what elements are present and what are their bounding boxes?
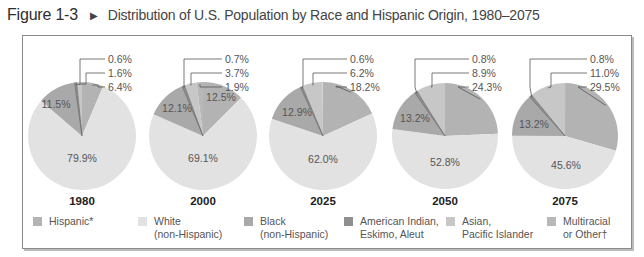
callout-label-multiracial: 1.9% (225, 81, 249, 93)
pct-label-black: 12.1% (162, 102, 192, 114)
legend-swatch (138, 217, 147, 226)
callout-label-american-indian: 0.6% (350, 53, 374, 65)
pct-label-black: 13.2% (519, 118, 549, 130)
callout-label-american-indian: 0.8% (590, 53, 614, 65)
legend-label: Black(non-Hispanic) (260, 215, 328, 241)
pct-label-black: 12.9% (282, 106, 312, 118)
callout-label-american-indian: 0.6% (108, 53, 132, 65)
pct-label-white: 45.6% (551, 159, 581, 171)
callout-label-hispanic: 6.4% (108, 81, 132, 93)
pct-label-white: 62.0% (308, 153, 338, 165)
legend-swatch (547, 217, 556, 226)
callout-label-asian: 11.0% (590, 67, 619, 79)
pct-label-white: 79.9% (67, 152, 97, 164)
pie-2000: 69.1%12.1%12.5%0.7%3.7%1.9%2000 (149, 53, 257, 207)
year-label: 2075 (552, 195, 578, 207)
legend-label: American Indian,Eskimo, Aleut (360, 215, 439, 241)
legend-swatch (344, 217, 353, 226)
pie-2075: 45.6%13.2%0.8%11.0%29.5%2075 (512, 53, 620, 207)
legend-label: Asian,Pacific Islander (462, 215, 533, 241)
pie-1980: 79.9%11.5%0.6%1.6%6.4%1980 (28, 53, 136, 207)
callout-label-hispanic: 18.2% (350, 81, 380, 93)
pct-label-white: 69.1% (188, 152, 218, 164)
legend-label: Hispanic* (49, 215, 93, 228)
callout-label-hispanic: 29.5% (590, 81, 620, 93)
pct-label-black: 11.5% (42, 98, 71, 110)
pct-label-black: 13.2% (400, 112, 430, 124)
callout-label-hispanic: 24.3% (472, 81, 502, 93)
callout-label-asian: 6.2% (350, 67, 374, 79)
year-label: 1980 (69, 195, 95, 207)
pct-label-white: 52.8% (430, 156, 460, 168)
legend-swatch (33, 217, 42, 226)
callout-label-american-indian: 0.8% (472, 53, 496, 65)
legend-label: White(non-Hispanic) (154, 215, 222, 241)
year-label: 2000 (190, 195, 216, 207)
legend-swatch (446, 217, 455, 226)
year-label: 2050 (432, 195, 458, 207)
year-label: 2025 (310, 195, 336, 207)
callout-label-asian: 3.7% (225, 67, 249, 79)
pie-2050: 52.8%13.2%0.8%8.9%24.3%2050 (392, 53, 502, 207)
callout-label-american-indian: 0.7% (225, 53, 249, 65)
pie-2025: 62.0%12.9%0.6%6.2%18.2%2025 (269, 53, 380, 207)
legend-label: Multiracialor Other† (563, 215, 610, 241)
callout-label-asian: 1.6% (108, 67, 132, 79)
callout-label-asian: 8.9% (472, 67, 496, 79)
legend-swatch (244, 217, 253, 226)
